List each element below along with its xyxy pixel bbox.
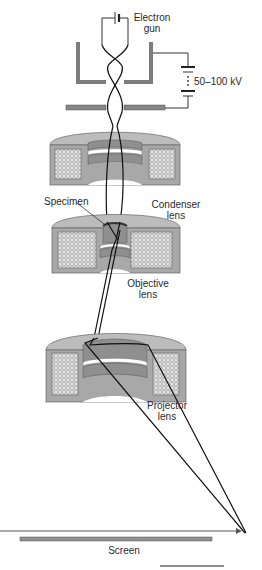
objective-lens-label: Objective lens (122, 278, 174, 300)
objective-lens-label-line2: lens (122, 289, 174, 300)
electron-gun-label-line1: Electron (129, 12, 175, 23)
electron-gun-label: Electron gun (129, 12, 175, 34)
projector-lens-label: Projector lens (142, 400, 192, 422)
voltage-label: 50–100 kV (194, 76, 242, 87)
anode-plates (66, 105, 165, 110)
high-voltage-supply (153, 53, 195, 108)
electron-gun-label-line2: gun (129, 23, 175, 34)
condenser-lens (50, 132, 180, 185)
projector-lens-label-line1: Projector (142, 400, 192, 411)
optical-axis-arrow (0, 528, 242, 534)
electron-gun (102, 12, 128, 66)
condenser-lens-label: Condenser lens (148, 199, 204, 221)
condenser-lens-label-line2: lens (148, 210, 204, 221)
condenser-lens-label-line1: Condenser (148, 199, 204, 210)
screen-label: Screen (96, 545, 152, 556)
specimen-label: Specimen (44, 196, 88, 207)
objective-lens-label-line1: Objective (122, 278, 174, 289)
projector-lens-label-line2: lens (142, 411, 192, 422)
screen (20, 537, 212, 541)
objective-lens (52, 215, 180, 274)
wehnelt-cylinder (78, 42, 151, 82)
electron-beam-upper (108, 66, 123, 126)
